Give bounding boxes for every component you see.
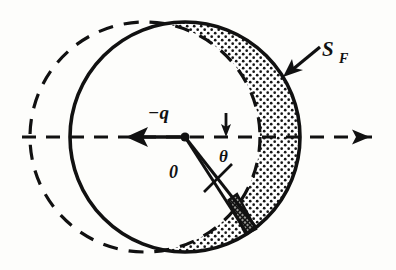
center-point <box>180 132 189 141</box>
surface-label: S <box>322 37 334 61</box>
angle-label: θ <box>219 147 228 166</box>
surface-label-subscript: F <box>338 51 349 66</box>
charge-label: −q <box>148 102 170 123</box>
origin-label: 0 <box>169 162 178 182</box>
stippled-band <box>0 0 396 270</box>
physics-diagram: S F −q 0 θ <box>0 0 396 270</box>
figure-container: S F −q 0 θ <box>0 0 396 270</box>
